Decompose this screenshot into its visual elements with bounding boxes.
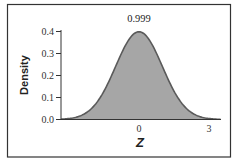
x-axis-label: Z — [135, 135, 145, 150]
x-tick-label: 3 — [206, 123, 211, 134]
y-axis-label: Density — [18, 54, 30, 95]
x-tick-label: 0 — [137, 123, 142, 134]
annotation-label: 0.999 — [127, 13, 151, 24]
y-tick-label: 0.2 — [42, 70, 55, 81]
y-tick-label: 0.3 — [42, 48, 55, 59]
y-tick-label: 0.0 — [42, 114, 55, 125]
chart: 0.00.10.20.30.4 03 0.999 Density Z — [0, 0, 245, 166]
y-tick-label: 0.1 — [42, 92, 55, 103]
y-tick-label: 0.4 — [42, 26, 55, 37]
